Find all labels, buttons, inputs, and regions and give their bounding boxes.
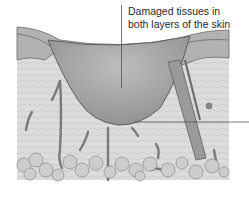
label-line-2: both layers of the skin — [128, 18, 230, 31]
damaged-tissues-label: Damaged tissues in both layers of the sk… — [128, 5, 230, 31]
label-line-1: Damaged tissues in — [128, 5, 230, 18]
